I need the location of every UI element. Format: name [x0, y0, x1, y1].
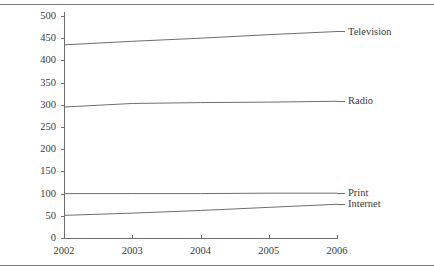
- x-axis-label-2006: 2006: [315, 245, 359, 256]
- label-leader-lines-group: [337, 32, 345, 205]
- x-axis-label-2002: 2002: [42, 245, 86, 256]
- series-label-television: Television: [348, 26, 392, 37]
- series-line-radio: [64, 101, 337, 107]
- y-axis-label-400: 400: [16, 54, 56, 65]
- y-axis-label-50: 50: [16, 210, 56, 221]
- y-axis-label-300: 300: [16, 99, 56, 110]
- y-axis-label-350: 350: [16, 77, 56, 88]
- data-series-group: [64, 32, 337, 216]
- y-axis-label-0: 0: [16, 232, 56, 243]
- y-axis-label-100: 100: [16, 188, 56, 199]
- x-axis-label-2005: 2005: [247, 245, 291, 256]
- figure-container: 050100150200250300350400450500 200220032…: [0, 0, 434, 273]
- y-axis-label-450: 450: [16, 32, 56, 43]
- y-axis-label-500: 500: [16, 10, 56, 21]
- series-label-internet: Internet: [348, 198, 381, 209]
- line-chart-canvas: [0, 0, 434, 273]
- series-line-internet: [64, 204, 337, 215]
- series-label-radio: Radio: [348, 95, 373, 106]
- y-axis-label-200: 200: [16, 143, 56, 154]
- series-line-television: [64, 32, 337, 45]
- y-axis-label-150: 150: [16, 165, 56, 176]
- axis-group: [65, 12, 338, 239]
- x-axis-label-2003: 2003: [110, 245, 154, 256]
- x-axis-label-2004: 2004: [179, 245, 223, 256]
- series-label-print: Print: [348, 187, 368, 198]
- tick-marks-group: [61, 17, 338, 239]
- y-axis-label-250: 250: [16, 121, 56, 132]
